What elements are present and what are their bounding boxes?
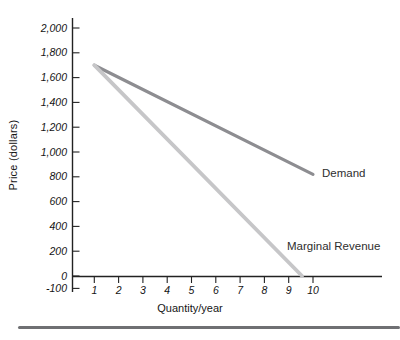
- y-tick-label: 1,600: [41, 71, 67, 83]
- y-tick-label: -100: [46, 282, 67, 294]
- y-tick-label: 1,400: [41, 96, 67, 108]
- y-tick-label: 0: [61, 270, 67, 282]
- bottom-separator-rule: [18, 326, 400, 329]
- x-tick-label: 6: [213, 284, 219, 296]
- y-tick-label: 1,200: [41, 121, 67, 133]
- y-tick-label: 1,000: [41, 146, 67, 158]
- demand-line-label: Demand: [322, 167, 365, 179]
- x-tick-label: 2: [115, 284, 122, 296]
- x-tick-label: 7: [237, 284, 244, 296]
- x-tick-label: 4: [164, 284, 170, 296]
- chart-series: [94, 65, 313, 276]
- marginal-revenue-line: [94, 65, 302, 276]
- marginal-revenue-line-label: Marginal Revenue: [287, 240, 380, 252]
- x-tick-label: 5: [189, 284, 195, 296]
- y-tick-label: 2,000: [40, 22, 67, 34]
- x-tick-label: 3: [140, 284, 146, 296]
- demand-line: [94, 65, 313, 174]
- y-tick-label: 200: [48, 245, 67, 257]
- x-axis-title: Quantity/year: [140, 302, 240, 314]
- y-axis-title: Price (dollars): [7, 90, 21, 220]
- x-tick-label: 10: [307, 284, 319, 296]
- x-tick-label: 8: [261, 284, 267, 296]
- x-tick-label: 9: [286, 284, 292, 296]
- y-tick-label: 800: [49, 170, 67, 182]
- x-tick-label: 1: [91, 284, 97, 296]
- price-quantity-chart: 2,0001,8001,6001,4001,2001,0008006004002…: [0, 0, 400, 340]
- axis-ticks: 2,0001,8001,6001,4001,2001,0008006004002…: [40, 22, 319, 296]
- y-tick-label: 600: [49, 195, 67, 207]
- y-tick-label: 1,800: [41, 46, 67, 58]
- y-tick-label: 400: [49, 220, 67, 232]
